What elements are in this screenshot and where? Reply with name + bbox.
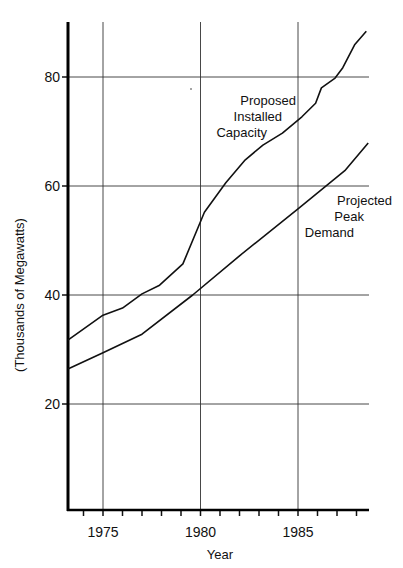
stray-dot (190, 88, 192, 90)
x-tick-label: 1985 (282, 524, 313, 540)
series-label-line: Demand (305, 225, 354, 240)
y-tick-label: 60 (44, 178, 60, 194)
series-label-line: Installed (234, 109, 282, 124)
line-chart: 20406080197519801985 ProposedInstalledCa… (0, 0, 403, 568)
series-label-line: Proposed (240, 93, 296, 108)
gridlines (68, 22, 369, 510)
x-axis-label: Year (207, 547, 234, 562)
data-series (68, 31, 368, 369)
axes: 20406080197519801985 (44, 22, 369, 540)
y-axis-label: (Thousands of Megawatts) (12, 218, 27, 372)
y-tick-label: 40 (44, 287, 60, 303)
series-label-line: Projected (337, 193, 392, 208)
y-tick-label: 80 (44, 69, 60, 85)
series-label-line: Capacity (216, 125, 267, 140)
x-tick-label: 1980 (185, 524, 216, 540)
x-tick-label: 1975 (87, 524, 118, 540)
series-label-line: Peak (334, 209, 364, 224)
y-tick-label: 20 (44, 396, 60, 412)
series-line-demand (68, 143, 368, 369)
